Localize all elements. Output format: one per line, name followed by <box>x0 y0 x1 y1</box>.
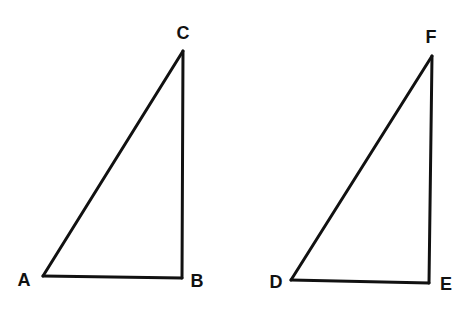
side-ab <box>43 276 182 278</box>
side-ef <box>429 56 432 283</box>
vertex-label-c: C <box>177 23 190 43</box>
triangle-abc: A B C <box>18 23 204 291</box>
vertex-label-f: F <box>426 27 437 47</box>
side-de <box>291 280 429 283</box>
side-bc <box>182 51 183 278</box>
vertex-label-e: E <box>440 274 452 294</box>
triangle-def: D E F <box>270 27 453 294</box>
side-df <box>291 56 432 280</box>
side-ac <box>43 51 183 276</box>
diagram-canvas: A B C D E F <box>0 0 476 309</box>
vertex-label-a: A <box>18 270 31 290</box>
vertex-label-b: B <box>191 271 204 291</box>
vertex-label-d: D <box>270 272 283 292</box>
